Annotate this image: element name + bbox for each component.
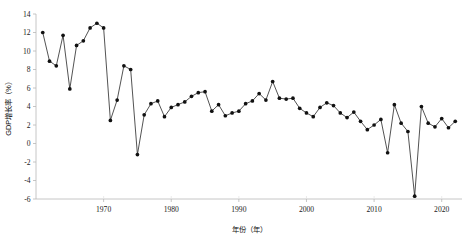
data-point-2013 bbox=[393, 103, 397, 107]
data-point-1985 bbox=[203, 90, 207, 94]
data-point-1992 bbox=[251, 99, 255, 103]
data-point-2009 bbox=[365, 128, 369, 132]
y-axis-title: GDP增长率（%） bbox=[4, 78, 13, 136]
data-point-1971 bbox=[109, 119, 113, 123]
x-tick-label-1990: 1990 bbox=[231, 205, 246, 214]
data-point-2003 bbox=[325, 101, 329, 105]
data-point-2015 bbox=[406, 130, 410, 134]
data-point-1968 bbox=[88, 26, 92, 30]
y-tick-label-14: 14 bbox=[23, 10, 31, 19]
data-point-1965 bbox=[68, 87, 72, 91]
data-point-2019 bbox=[433, 125, 437, 129]
data-point-1998 bbox=[291, 96, 295, 100]
data-point-1979 bbox=[163, 115, 167, 119]
data-point-1983 bbox=[190, 94, 194, 98]
data-point-1981 bbox=[176, 103, 180, 107]
data-point-1962 bbox=[48, 59, 52, 63]
x-tick-label-1980: 1980 bbox=[164, 205, 179, 214]
data-point-1993 bbox=[257, 92, 261, 96]
y-tick-label-2: 2 bbox=[27, 121, 31, 130]
data-point-2000 bbox=[305, 111, 309, 115]
data-point-1963 bbox=[54, 64, 58, 68]
data-point-1967 bbox=[81, 39, 85, 43]
data-point-1997 bbox=[284, 97, 288, 101]
data-point-1972 bbox=[115, 98, 119, 102]
y-tick-label-4: 4 bbox=[27, 102, 31, 111]
y-tick-label-0: 0 bbox=[27, 139, 31, 148]
data-point-1964 bbox=[61, 33, 65, 37]
data-point-1995 bbox=[271, 80, 275, 84]
data-point-1976 bbox=[142, 113, 146, 117]
data-point-2014 bbox=[399, 121, 403, 125]
x-tick-label-2010: 2010 bbox=[367, 205, 382, 214]
data-point-1977 bbox=[149, 102, 153, 106]
y-tick-label-12: 12 bbox=[23, 28, 31, 37]
data-point-2001 bbox=[311, 115, 315, 119]
data-point-1999 bbox=[298, 107, 302, 111]
x-axis-title-group: 年份（年） bbox=[232, 225, 267, 234]
data-point-1994 bbox=[264, 98, 268, 102]
data-point-1984 bbox=[196, 91, 200, 95]
data-point-1973 bbox=[122, 64, 126, 68]
data-point-1974 bbox=[129, 68, 133, 72]
x-tick-label-1970: 1970 bbox=[96, 205, 111, 214]
data-point-1978 bbox=[156, 99, 160, 103]
data-point-1989 bbox=[230, 111, 234, 115]
y-tick-label-10: 10 bbox=[23, 47, 31, 56]
data-point-2012 bbox=[386, 151, 390, 155]
data-point-1966 bbox=[75, 44, 79, 48]
data-point-2006 bbox=[345, 116, 349, 120]
data-point-1991 bbox=[244, 102, 248, 106]
data-point-1986 bbox=[210, 109, 214, 113]
x-tick-label-2020: 2020 bbox=[434, 205, 449, 214]
data-point-2007 bbox=[352, 110, 356, 114]
data-point-2004 bbox=[332, 104, 336, 108]
y-tick-label-6: 6 bbox=[27, 84, 31, 93]
data-point-2008 bbox=[359, 119, 363, 123]
data-point-2002 bbox=[318, 106, 322, 110]
data-point-1980 bbox=[169, 106, 173, 110]
data-point-2010 bbox=[372, 123, 376, 127]
data-point-1982 bbox=[183, 100, 187, 104]
data-point-1988 bbox=[223, 114, 227, 118]
data-point-2005 bbox=[338, 111, 342, 115]
data-point-1969 bbox=[95, 21, 99, 25]
data-point-2011 bbox=[379, 118, 383, 122]
data-point-1975 bbox=[136, 153, 140, 157]
data-point-2017 bbox=[420, 105, 424, 109]
y-axis-title-group: GDP增长率（%） bbox=[4, 78, 13, 136]
data-point-2022 bbox=[453, 119, 457, 123]
x-tick-label-2000: 2000 bbox=[299, 205, 314, 214]
figure-container: -6-4-202468101214 1970198019902000201020… bbox=[0, 0, 468, 248]
cropped-caption-strip bbox=[0, 241, 468, 248]
y-tick-label--2: -2 bbox=[24, 158, 31, 167]
gdp-growth-line-chart: -6-4-202468101214 1970198019902000201020… bbox=[0, 0, 468, 248]
y-tick-label--4: -4 bbox=[24, 176, 31, 185]
data-point-1990 bbox=[237, 109, 241, 113]
data-point-1970 bbox=[102, 26, 106, 30]
data-point-2018 bbox=[426, 121, 430, 125]
data-point-1961 bbox=[41, 31, 45, 35]
data-point-2020 bbox=[440, 117, 444, 121]
x-axis-title: 年份（年） bbox=[232, 225, 267, 234]
data-point-1996 bbox=[278, 96, 282, 100]
data-point-2021 bbox=[447, 126, 451, 130]
data-point-1987 bbox=[217, 103, 221, 107]
data-point-2016 bbox=[413, 194, 417, 198]
y-tick-label-8: 8 bbox=[27, 65, 31, 74]
y-tick-label--6: -6 bbox=[24, 195, 31, 204]
